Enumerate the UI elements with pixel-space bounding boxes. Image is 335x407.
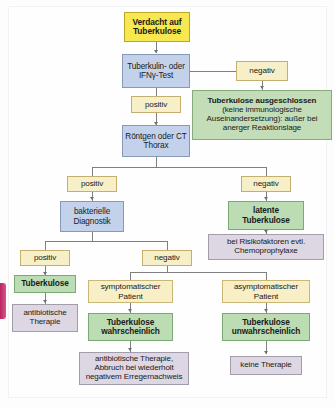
node-bacteriology-label: bakterielle Diagnostik bbox=[63, 207, 121, 225]
node-antibiotic-therapy-label: antibiotische Therapie bbox=[15, 309, 75, 327]
arrowhead-asymptomatic-unlikely bbox=[264, 309, 268, 312]
node-bact-positive-label[interactable]: positiv bbox=[20, 250, 70, 266]
node-symptomatic-patient[interactable]: symptomatischer Patient bbox=[88, 280, 173, 303]
node-tb-likely-label: Tuberkulose wahrscheinlich bbox=[91, 318, 170, 337]
node-no-therapy-label: keine Therapie bbox=[233, 361, 299, 370]
arrowhead-unlikely-none bbox=[264, 351, 268, 354]
arrowhead-negativ-excluded bbox=[260, 86, 264, 89]
test-negative-text: negativ bbox=[239, 66, 285, 75]
node-chemoprophylaxis-label: bei Risikofaktoren evtl. Chemoprophylaxe bbox=[211, 238, 321, 256]
node-chemoprophylaxis[interactable]: bei Risikofaktoren evtl. Chemoprophylaxe bbox=[208, 234, 324, 260]
node-bacterial-diagnostics[interactable]: bakterielle Diagnostik bbox=[60, 201, 124, 232]
connector-bact-right bbox=[167, 241, 168, 250]
connector-imaging-down bbox=[156, 157, 157, 167]
node-test-positive-label[interactable]: positiv bbox=[131, 96, 181, 113]
node-asymptomatic-patient[interactable]: asymptomatischer Patient bbox=[222, 280, 310, 303]
arrowhead-negativ-latent bbox=[264, 197, 268, 200]
node-imaging-positive-label[interactable]: positiv bbox=[67, 176, 117, 192]
node-tb-unlikely-label: Tuberkulose unwahrscheinlich bbox=[225, 318, 307, 337]
node-tuberculin-ifn-test[interactable]: Tuberkulin- oder IFNγ-Test bbox=[122, 54, 190, 88]
node-symptomatic-label: symptomatischer Patient bbox=[91, 282, 170, 300]
arrowhead-latent-chemo bbox=[264, 230, 268, 233]
bact-negative-text: negativ bbox=[145, 253, 189, 262]
connector-patients-split bbox=[130, 272, 266, 273]
arrowhead-positiv-bact bbox=[90, 197, 94, 200]
node-start-suspicion[interactable]: Verdacht auf Tuberkulose bbox=[124, 12, 190, 42]
node-bact-negative-label[interactable]: negativ bbox=[142, 250, 192, 266]
node-start-label: Verdacht auf Tuberkulose bbox=[127, 18, 187, 37]
node-antibiotic-therapy[interactable]: antibiotische Therapie bbox=[12, 304, 78, 332]
node-latent-tuberculosis[interactable]: latente Tuberkulose bbox=[228, 201, 304, 230]
imaging-negative-text: negativ bbox=[244, 179, 288, 188]
connector-imaging-split bbox=[92, 167, 267, 168]
page-bleed-tab bbox=[0, 283, 6, 319]
node-tuberculosis-label: Tuberkulose bbox=[17, 279, 73, 288]
test-positive-text: positiv bbox=[134, 100, 178, 109]
node-imaging-xray-ct[interactable]: Röntgen oder CT Thorax bbox=[122, 125, 190, 157]
connector-imaging-left bbox=[92, 167, 93, 176]
node-antibiotic-stop-label: antibiotische Therapie, Abbruch bei wied… bbox=[82, 355, 186, 382]
tb-excluded-body: (keine immunologische Auseinandersetzung… bbox=[195, 106, 329, 133]
node-imaging-negative-label[interactable]: negativ bbox=[241, 176, 291, 192]
node-tb-excluded[interactable]: Tuberkulose ausgeschlossen (keine immuno… bbox=[192, 90, 332, 140]
node-no-therapy[interactable]: keine Therapie bbox=[230, 356, 302, 375]
connector-asymptomatic-stem bbox=[266, 272, 267, 280]
arrowhead-start-test bbox=[154, 50, 158, 53]
node-tb-unlikely[interactable]: Tuberkulose unwahrscheinlich bbox=[222, 313, 310, 341]
node-asymptomatic-label: asymptomatischer Patient bbox=[225, 282, 307, 300]
node-test-negative-label[interactable]: negativ bbox=[236, 61, 288, 81]
connector-imaging-right bbox=[266, 167, 267, 176]
connector-bact-split bbox=[45, 241, 167, 242]
arrowhead-tb-antibiotic bbox=[43, 300, 47, 303]
connector-bact-left bbox=[45, 241, 46, 250]
flowchart-canvas: Verdacht auf Tuberkulose Tuberkulin- ode… bbox=[0, 0, 335, 407]
bact-positive-text: positiv bbox=[23, 253, 67, 262]
arrowhead-likely-antibiotic bbox=[128, 348, 132, 351]
connector-symptomatic-stem bbox=[130, 272, 131, 280]
node-imaging-label: Röntgen oder CT Thorax bbox=[125, 132, 187, 150]
connector-test-positiv bbox=[156, 88, 157, 96]
node-antibiotic-therapy-stop[interactable]: antibiotische Therapie, Abbruch bei wied… bbox=[79, 352, 189, 385]
node-latent-tb-label: latente Tuberkulose bbox=[231, 206, 301, 225]
node-tuberculosis-confirmed[interactable]: Tuberkulose bbox=[14, 275, 76, 293]
node-test-label: Tuberkulin- oder IFNγ-Test bbox=[125, 62, 187, 80]
imaging-positive-text: positiv bbox=[70, 179, 114, 188]
connector-bact-down bbox=[92, 232, 93, 241]
node-tb-likely[interactable]: Tuberkulose wahrscheinlich bbox=[88, 313, 173, 341]
arrowhead-symptomatic-likely bbox=[128, 309, 132, 312]
